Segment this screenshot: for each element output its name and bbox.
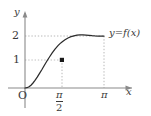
marked-point-marker <box>60 58 64 62</box>
x-tick-numerator: π <box>56 90 63 101</box>
y-axis-arrow-icon <box>23 11 28 18</box>
y-tick-label-2: 2 <box>12 30 19 41</box>
x-tick-denominator: 2 <box>56 103 63 114</box>
y-tick-label-1: 1 <box>13 54 20 65</box>
y-axis-label: y <box>14 7 20 17</box>
x-tick-label-half-pi: π 2 <box>56 90 63 113</box>
function-graph-figure: y x 2 1 O π 2 π y=f(x) <box>0 0 151 116</box>
x-axis-label: x <box>126 87 132 97</box>
function-curve <box>25 35 104 88</box>
curve-label: y=f(x) <box>109 28 140 38</box>
x-tick-label-pi: π <box>101 90 108 100</box>
origin-label: O <box>18 90 27 101</box>
